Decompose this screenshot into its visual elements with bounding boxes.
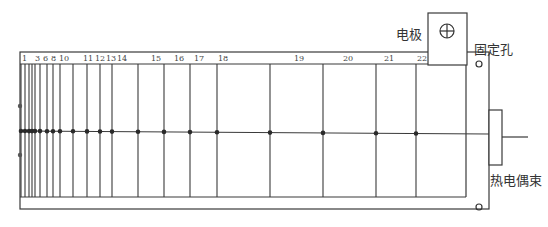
thermocouple-number-label: 21 [384,54,394,63]
thermocouple-number-label: 13 [106,54,116,63]
thermocouple-number-label: 22 [417,54,427,63]
thermocouple-number-label: 6 [43,54,48,63]
thermocouple-number-label: 1 [22,54,27,63]
thermocouple-junction-16 [162,130,167,135]
thermocouple-number-label: 17 [194,54,204,63]
thermocouple-junction-12 [85,129,90,134]
left-marker-dot-bottom [18,153,22,157]
thermocouple-junction-21 [374,131,379,136]
fixing-hole-top [476,61,482,67]
thermocouple-junction-11 [71,129,76,134]
thermocouple-junction-5 [33,129,38,134]
thermocouple-junction-14 [110,129,115,134]
thermocouple-junction-18 [215,130,220,135]
electrode-box [428,13,467,65]
thermocouple-number-label: 18 [218,54,228,63]
thermocouple-number-label: 12 [95,54,105,63]
thermocouple-layout-diagram: 136810111213141516171819202122 电极 固定孔 热电… [0,0,548,227]
thermocouple-junction-8 [51,129,56,134]
diagram-canvas: 136810111213141516171819202122 [0,0,548,227]
thermocouple-junction-22 [414,131,419,136]
thermocouple-bundle-connector [489,110,502,165]
thermocouple-junction-1 [19,129,24,134]
thermocouple-junction-15 [136,130,141,135]
thermocouple-number-label: 14 [117,54,127,63]
main-thermocouple-wire [20,131,489,134]
thermocouple-junction-13 [98,129,103,134]
thermocouple-number-label: 15 [151,54,161,63]
outer-plate-frame [20,52,489,209]
thermocouple-junction-2 [23,129,28,134]
thermocouple-number-label: 11 [83,54,93,63]
thermocouple-junction-17 [188,130,193,135]
thermocouple-bundle-label: 热电偶束 [490,170,542,189]
thermocouple-junction-19 [268,130,273,135]
left-marker-dot-top [18,104,22,108]
thermocouple-junction-6 [38,129,43,134]
thermocouple-number-label: 3 [35,54,40,63]
thermocouple-number-label: 8 [51,54,56,63]
thermocouple-junction-7 [45,129,50,134]
thermocouple-junction-10 [58,129,63,134]
thermocouple-number-label: 16 [174,54,184,63]
thermocouple-number-label: 20 [343,54,353,63]
crosshair-circle-icon [440,24,454,38]
electrode-label: 电极 [396,24,422,43]
thermocouple-junction-20 [321,131,326,136]
fixing-hole-label: 固定孔 [474,39,513,58]
thermocouple-number-label: 19 [294,54,304,63]
thermocouple-number-label: 10 [59,54,69,63]
